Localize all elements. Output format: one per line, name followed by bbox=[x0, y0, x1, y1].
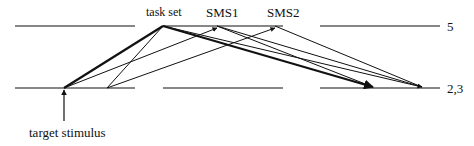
label-target-stimulus: target stimulus bbox=[29, 126, 106, 139]
label-sms2: SMS2 bbox=[267, 6, 300, 19]
label-level-bottom: 2,3 bbox=[447, 82, 463, 95]
label-sms1: SMS1 bbox=[206, 6, 239, 19]
edges bbox=[64, 26, 422, 88]
edge-sms1-to-out2 bbox=[217, 26, 422, 87]
edge-target-to-taskset bbox=[64, 26, 163, 88]
edge-midbottom-to-sms2 bbox=[107, 28, 275, 88]
label-level-top: 5 bbox=[447, 20, 454, 33]
edge-target-to-sms1 bbox=[64, 28, 217, 88]
label-task-set: task set bbox=[146, 6, 182, 18]
edge-taskset-to-out2 bbox=[163, 26, 422, 87]
